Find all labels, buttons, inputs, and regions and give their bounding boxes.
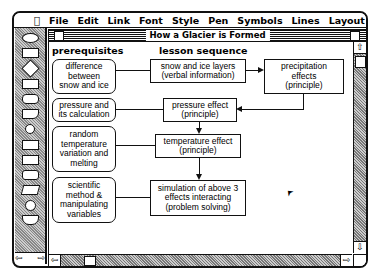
size-box-icon[interactable] <box>353 254 366 266</box>
circle-shape-tool[interactable] <box>25 200 36 211</box>
flow-line <box>242 109 304 110</box>
node-text: (verbal information) <box>161 71 234 81</box>
arrow-right-icon <box>258 67 264 73</box>
flow-line <box>199 121 200 128</box>
connector-line <box>115 145 155 146</box>
palette-scroll: ⇦ ⇨ <box>15 252 45 264</box>
flowchart-canvas[interactable]: prerequisites lesson sequence difference… <box>49 42 352 253</box>
mouse-pointer-icon: ➤ <box>283 186 296 199</box>
connector-line <box>115 197 150 198</box>
shape-palette: ⇦ ⇨ <box>15 28 47 264</box>
trapezoid-shape-tool[interactable] <box>22 155 39 165</box>
close-box[interactable] <box>54 31 64 41</box>
menu-pen[interactable]: Pen <box>208 15 228 26</box>
prereq-node-scientific[interactable]: scientific method & manipulating variabl… <box>52 177 116 223</box>
vertical-scrollbar[interactable]: ⇧ ⇩ <box>353 42 366 253</box>
palette-left-icon[interactable]: ⇦ <box>15 253 23 264</box>
scroll-right-icon[interactable]: ⇨ <box>340 255 352 266</box>
scroll-up-icon[interactable]: ⇧ <box>354 42 366 54</box>
offpage-shape-tool[interactable] <box>22 215 39 225</box>
connector-line <box>115 70 150 71</box>
arrow-down-icon <box>196 174 202 180</box>
diamond-shape-tool[interactable] <box>21 59 39 77</box>
seq-node-precipitation[interactable]: precipitation effects (principle) <box>264 59 344 94</box>
screen:  File Edit Link Font Style Pen Symbols … <box>12 11 368 268</box>
apple-menu-icon[interactable]:  <box>34 15 40 26</box>
menu-layout[interactable]: Layout <box>329 15 365 26</box>
flow-line <box>199 157 200 174</box>
seq-node-snow-ice-layers[interactable]: snow and ice layers (verbal information) <box>150 59 246 83</box>
lesson-sequence-heading: lesson sequence <box>159 45 248 56</box>
menu-edit[interactable]: Edit <box>77 15 98 26</box>
node-text: (problem solving) <box>165 203 230 213</box>
node-text: melting <box>70 159 97 169</box>
menu-symbols[interactable]: Symbols <box>237 15 282 26</box>
manual-input-shape-tool[interactable] <box>22 140 39 150</box>
arrow-left-icon <box>236 106 242 112</box>
parallelogram-shape-tool[interactable] <box>21 185 41 195</box>
flow-line <box>303 93 304 109</box>
scroll-left-icon[interactable]: ⇦ <box>49 255 61 266</box>
horizontal-scrollbar[interactable]: ⇦ ⇨ <box>49 254 352 266</box>
seq-node-pressure-effect[interactable]: pressure effect (principle) <box>163 98 237 122</box>
menu-link[interactable]: Link <box>108 15 130 26</box>
connector-shape-tool[interactable] <box>25 124 35 134</box>
node-text: (principle) <box>181 110 218 120</box>
hexagon-shape-tool[interactable] <box>22 170 39 180</box>
menu-bar:  File Edit Link Font Style Pen Symbols … <box>14 13 366 28</box>
horizontal-scroll-thumb[interactable] <box>84 256 96 266</box>
node-text: its calculation <box>58 110 109 120</box>
title-bar[interactable]: How a Glacier is Formed <box>49 30 366 42</box>
node-text: variables <box>67 210 101 220</box>
menu-file[interactable]: File <box>49 15 68 26</box>
palette-right-icon[interactable]: ⇨ <box>37 253 45 264</box>
node-text: (principle) <box>285 81 322 91</box>
menu-font[interactable]: Font <box>139 15 163 26</box>
prereq-node-snow-ice[interactable]: difference between snow and ice <box>52 59 116 94</box>
seq-node-simulation[interactable]: simulation of above 3 effects interactin… <box>150 180 246 216</box>
oval-shape-tool[interactable] <box>22 33 39 43</box>
node-text: snow and ice <box>59 81 109 91</box>
connector-line <box>115 109 163 110</box>
menu-style[interactable]: Style <box>172 15 199 26</box>
seq-node-temperature-effect[interactable]: temperature effect (principle) <box>155 134 241 158</box>
vertical-scroll-thumb[interactable] <box>355 56 366 68</box>
scroll-down-icon[interactable]: ⇩ <box>354 241 366 253</box>
arrow-down-icon <box>196 128 202 134</box>
window-title: How a Glacier is Formed <box>145 30 269 41</box>
card-shape-tool[interactable] <box>22 109 39 119</box>
node-text: (principle) <box>179 146 216 156</box>
rounded-shape-tool[interactable] <box>22 94 39 104</box>
prereq-node-temperature[interactable]: random temperature variation and melting <box>52 126 116 172</box>
zoom-box[interactable] <box>350 31 360 41</box>
prerequisites-heading: prerequisites <box>52 45 123 56</box>
prereq-node-pressure[interactable]: pressure and its calculation <box>52 98 116 122</box>
document-shape-tool[interactable] <box>22 79 39 89</box>
menu-lines[interactable]: Lines <box>292 15 320 26</box>
flow-line <box>245 70 258 71</box>
document-window: How a Glacier is Formed prerequisites le… <box>48 29 367 267</box>
rectangle-shape-tool[interactable] <box>22 48 39 58</box>
